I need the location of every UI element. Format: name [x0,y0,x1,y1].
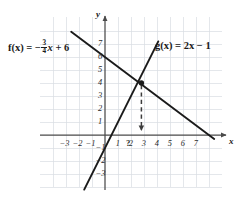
x-tick-label: −1 [86,140,96,148]
function-f-label: f(x) = −34x + 6 [8,40,69,56]
graph-figure: f(x) = −34x + 6 g(x) = 2x − 1 x y ? −3−2… [0,0,243,198]
y-tick-label: 4 [98,79,102,87]
x-tick-label: 4 [155,140,159,148]
intersection-point [139,80,144,85]
function-f-constant: + 6 [53,42,69,53]
x-axis-label: x [229,137,234,146]
fraction-denominator: 4 [41,47,47,55]
function-g-label: g(x) = 2x − 1 [155,41,211,52]
y-tick-label: 7 [98,40,102,48]
y-tick-label: −2 [96,157,106,165]
y-tick-label: 3 [98,92,102,100]
y-tick-label: 2 [98,105,102,113]
fraction-three-fourths: 34 [41,40,47,56]
y-tick-label: 1 [98,118,102,126]
y-tick-label: −1 [96,144,106,152]
y-tick-label: −3 [96,170,106,178]
x-tick-label: 2 [129,140,133,148]
x-tick-label: 5 [168,140,172,148]
x-tick-label: −3 [60,140,70,148]
y-tick-label: 5 [98,66,102,74]
y-tick-label: 6 [98,53,102,61]
function-f-prefix: f(x) = − [8,42,41,53]
coordinate-plane [0,0,243,198]
x-tick-label: 1 [116,140,120,148]
x-tick-label: 7 [194,140,198,148]
line-g [84,41,158,189]
x-tick-label: 6 [181,140,185,148]
x-tick-label: −2 [73,140,83,148]
y-axis-label: y [96,10,100,19]
x-tick-label: 3 [142,140,146,148]
fraction-numerator: 3 [41,40,47,47]
